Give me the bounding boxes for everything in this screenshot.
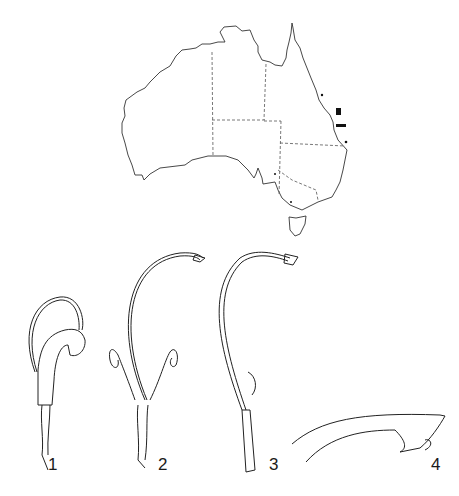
panel-label-2: 2 (158, 455, 167, 475)
state-boundaries (212, 52, 345, 200)
drawing-4 (292, 414, 445, 462)
drawing-3 (219, 252, 298, 472)
tasmania-outline (289, 216, 306, 236)
panel-label-4: 4 (431, 455, 440, 475)
drawing-2 (109, 253, 205, 468)
figure-drawing (0, 0, 459, 496)
distribution-marks (274, 94, 347, 203)
panel-label-3: 3 (269, 455, 278, 475)
botanical-figure: 1 2 3 4 (0, 0, 459, 496)
australia-map-outline (122, 23, 347, 210)
drawing-1 (29, 297, 85, 470)
panel-label-1: 1 (48, 455, 57, 475)
